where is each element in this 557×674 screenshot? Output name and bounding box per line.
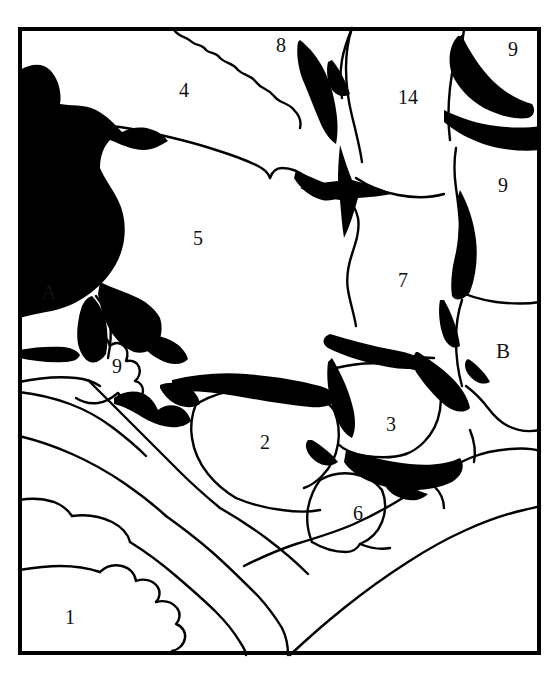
- label-grain-9b: 9: [498, 175, 508, 195]
- label-grain-3: 3: [386, 414, 396, 434]
- microstructure-figure: 8 9 4 14 9 5 7 A B 9 3 2 6 1: [0, 0, 557, 674]
- label-grain-2: 2: [260, 432, 270, 452]
- label-grain-1: 1: [65, 607, 75, 627]
- label-grain-5: 5: [193, 228, 203, 248]
- label-grain-9c: 9: [112, 356, 122, 376]
- label-grain-9a: 9: [508, 39, 518, 59]
- label-grain-14: 14: [398, 87, 418, 107]
- label-grain-8: 8: [276, 35, 286, 55]
- microstructure-drawing: [0, 0, 557, 674]
- label-grain-7: 7: [398, 270, 408, 290]
- label-grain-6: 6: [353, 503, 363, 523]
- label-pore-A: A: [41, 282, 56, 303]
- label-pore-B: B: [496, 341, 510, 362]
- label-grain-4: 4: [179, 80, 189, 100]
